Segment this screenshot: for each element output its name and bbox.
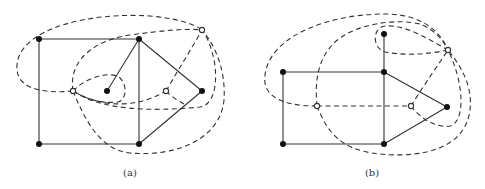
- dual-edge-om-ot-right: [411, 50, 461, 126]
- vertex-bm: [381, 141, 387, 147]
- dual-vertex-ot: [199, 27, 204, 32]
- dual-edge-ol-ot-outer: [17, 15, 202, 91]
- dual-vertex-om: [408, 103, 413, 108]
- dual-vertex-ol: [70, 88, 75, 93]
- vertex-tl: [280, 69, 286, 75]
- dual-edge-ol-loop: [73, 75, 125, 103]
- vertex-r: [199, 88, 205, 94]
- dual-edge-om-ot: [166, 30, 202, 91]
- dual-edge-ot-loop: [375, 26, 448, 54]
- vertex-r: [444, 104, 450, 110]
- panel-b-primal-vertices: [280, 31, 450, 147]
- vertex-bl: [280, 141, 286, 147]
- panel-a: (a): [17, 15, 224, 178]
- panel-b-dual-edges: [265, 14, 471, 155]
- vertex-tm: [136, 36, 142, 42]
- dual-edge-ol-ot-bottom: [317, 50, 470, 155]
- panel-b-dual-vertices: [314, 47, 450, 108]
- vertex-top: [381, 31, 387, 37]
- vertex-tm: [381, 69, 387, 75]
- panel-a-dual-edges: [17, 15, 224, 153]
- vertex-tl: [36, 36, 42, 42]
- vertex-bm: [136, 141, 142, 147]
- caption-a: (a): [123, 167, 137, 178]
- edge-tm-c: [107, 39, 139, 91]
- caption-b: (b): [365, 167, 379, 178]
- edge-bm-r: [384, 107, 447, 144]
- dual-vertex-ot: [445, 47, 450, 52]
- dual-edge-om-r-side: [166, 91, 186, 105]
- dual-vertex-ol: [314, 103, 319, 108]
- edge-tm-r: [384, 72, 447, 107]
- vertex-bl: [36, 141, 42, 147]
- vertex-c: [104, 88, 110, 94]
- dual-vertex-om: [163, 88, 168, 93]
- figure-canvas: (a): [0, 0, 485, 189]
- panel-b: (b): [265, 14, 471, 178]
